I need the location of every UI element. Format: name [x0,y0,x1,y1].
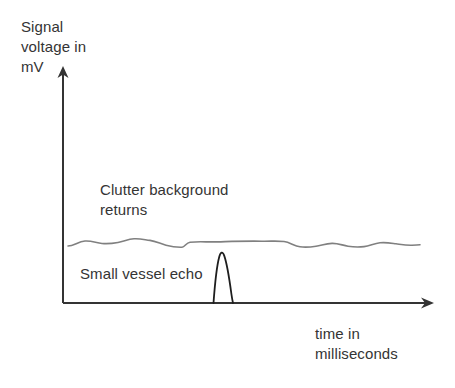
small-vessel-echo-label: Small vessel echo [80,264,203,284]
signal-plot-figure: Signal voltage in mV Clutter background … [0,0,455,388]
y-axis-title: Signal voltage in mV [21,17,86,77]
x-axis-title: time in milliseconds [315,324,398,364]
clutter-background-returns-label: Clutter background returns [100,180,229,220]
clutter-background-returns-trace [68,239,420,248]
small-vessel-echo-peak [214,253,234,303]
